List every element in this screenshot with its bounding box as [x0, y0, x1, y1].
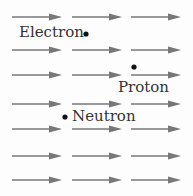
field-arrow-icon	[12, 47, 62, 54]
field-diagram: Electron Proton Neutron	[0, 0, 193, 196]
field-arrow-icon	[131, 14, 181, 21]
field-arrow-icon	[72, 72, 122, 79]
field-arrow-icon	[12, 72, 62, 79]
field-arrow-icon	[72, 177, 122, 184]
field-arrow-icon	[72, 126, 122, 133]
field-arrow-icon	[131, 126, 181, 133]
electron-label: Electron	[19, 25, 84, 40]
field-arrow-icon	[72, 153, 122, 160]
field-arrow-icon	[72, 47, 122, 54]
field-arrow-icon	[12, 126, 62, 133]
field-arrow-icon	[131, 47, 181, 54]
neutron-dot-icon	[62, 114, 67, 119]
field-arrow-icon	[131, 101, 181, 108]
field-arrow-icon	[12, 14, 62, 21]
proton-dot-icon	[131, 64, 136, 69]
field-arrow-icon	[131, 177, 181, 184]
electron-dot-icon	[83, 31, 88, 36]
field-arrow-icon	[131, 153, 181, 160]
proton-label: Proton	[118, 80, 169, 95]
neutron-label: Neutron	[72, 109, 136, 124]
field-arrow-icon	[12, 177, 62, 184]
field-arrow-icon	[12, 101, 62, 108]
field-arrow-icon	[72, 14, 122, 21]
field-arrow-icon	[12, 153, 62, 160]
